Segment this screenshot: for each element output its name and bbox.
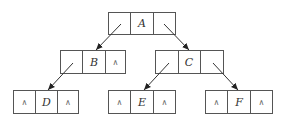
node-d-right-null: ∧: [65, 98, 71, 107]
node-b-label: B: [89, 56, 98, 69]
node-f-label: F: [234, 96, 243, 109]
node-d-label: D: [41, 96, 51, 109]
node-a-label: A: [137, 17, 146, 30]
node-c-label: C: [185, 56, 194, 69]
node-d: ∧ D ∧: [14, 91, 79, 114]
node-b-right-null: ∧: [113, 58, 119, 67]
node-e-label: E: [137, 96, 146, 109]
binary-tree-diagram: A B ∧ C ∧ D ∧ ∧ E ∧ ∧ F ∧: [0, 0, 282, 125]
node-e: ∧ E ∧: [109, 91, 176, 114]
node-d-left-null: ∧: [22, 98, 28, 107]
node-f-left-null: ∧: [214, 98, 220, 107]
node-e-right-null: ∧: [162, 98, 168, 107]
node-c: C: [156, 51, 224, 74]
node-a: A: [109, 13, 176, 35]
edge-c-right-to-f: [213, 63, 238, 90]
node-e-left-null: ∧: [117, 98, 123, 107]
node-f: ∧ F ∧: [206, 91, 273, 114]
node-f-right-null: ∧: [259, 98, 265, 107]
edge-a-right-to-c: [164, 24, 189, 50]
node-b: B ∧: [61, 51, 126, 74]
